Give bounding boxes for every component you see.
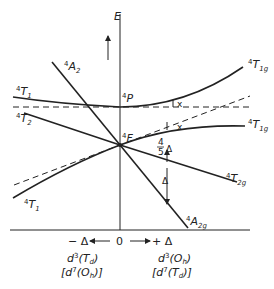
f-crossing-point: [118, 143, 122, 147]
right-caption-line2: [d7(Td)]: [152, 266, 192, 280]
minus-delta-label: − Δ: [68, 235, 89, 248]
a2g-line: [120, 145, 188, 228]
left-caption-line1: d3(Td): [67, 252, 98, 266]
energy-label: E: [114, 10, 121, 23]
zero-label: 0: [116, 235, 123, 248]
right-caption-line1: d3(Oh): [158, 252, 191, 266]
plus-delta-label: + Δ: [152, 235, 173, 248]
four-fifths-num: 4: [158, 137, 164, 147]
label-t1-lower: 4T1: [24, 198, 40, 213]
label-a2: 4A2: [64, 60, 81, 75]
label-t1g-lower: 4T1g: [248, 118, 269, 133]
four-fifths-den: 5: [158, 147, 164, 157]
label-t2g: 4T2g: [226, 172, 247, 187]
t2-line: [24, 113, 120, 145]
t2g-line: [120, 145, 237, 182]
four-fifths-delta: Δ: [166, 144, 173, 154]
t1g-lower-curve: [120, 126, 245, 145]
label-free-ion-p: 4P: [122, 92, 133, 105]
label-t1g-upper: 4T1g: [248, 58, 269, 73]
x-label-upper: x: [177, 99, 183, 109]
delta-label: Δ: [162, 176, 169, 186]
orgel-diagram: E 4A2 4T1 4T2 4T1 4P 4F 4T1g 4T1g 4T2g 4…: [0, 0, 274, 289]
left-caption-line2: [d7(Oh)]: [61, 266, 103, 280]
t1-lower-left-curve: [13, 145, 120, 198]
x-label-lower: x: [177, 122, 183, 132]
label-a2g: 4A2g: [186, 215, 207, 230]
